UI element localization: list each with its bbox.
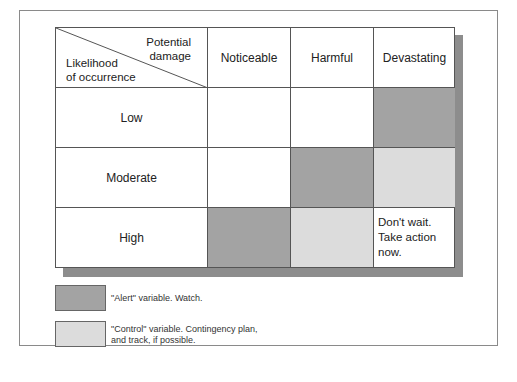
cell-low-devastating-alert — [374, 88, 455, 148]
likelihood-label: Likelihoodof occurrence — [66, 56, 136, 84]
cell-high-devastating-note: Don't wait.Take action now. — [374, 208, 455, 267]
legend-swatch-control — [55, 321, 106, 347]
legend-swatch-alert — [55, 285, 106, 311]
col-header-harmful: Harmful — [291, 28, 374, 88]
row-header-moderate: Moderate — [56, 148, 208, 208]
row-header-low: Low — [56, 88, 208, 148]
cell-moderate-harmful-alert — [291, 148, 374, 208]
cell-moderate-devastating-control — [374, 148, 455, 208]
legend-text-control: "Control" variable. Contingency plan,and… — [111, 324, 257, 346]
risk-matrix: Potentialdamage Likelihoodof occurrence … — [55, 27, 455, 268]
cell-moderate-noticeable — [208, 148, 291, 208]
cell-high-harmful-control — [291, 208, 374, 267]
col-header-noticeable: Noticeable — [208, 28, 291, 88]
legend-text-alert: "Alert" variable. Watch. — [111, 293, 203, 304]
cell-low-noticeable — [208, 88, 291, 148]
potential-damage-label: Potentialdamage — [146, 35, 191, 63]
corner-header: Potentialdamage Likelihoodof occurrence — [56, 28, 208, 88]
row-header-high: High — [56, 208, 208, 267]
col-header-devastating: Devastating — [374, 28, 455, 88]
cell-low-harmful — [291, 88, 374, 148]
cell-high-noticeable-alert — [208, 208, 291, 267]
